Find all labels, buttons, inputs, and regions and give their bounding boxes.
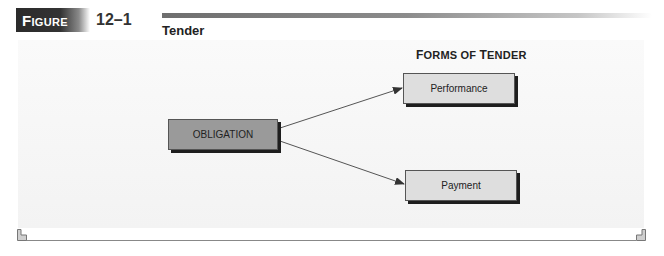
node-obligation-label: OBLIGATION: [193, 129, 253, 140]
node-performance-label: Performance: [430, 83, 487, 94]
node-performance: Performance: [403, 73, 515, 104]
corner-bracket-left-icon: [17, 229, 27, 241]
edge-obligation-performance: [277, 88, 402, 129]
edge-obligation-payment: [277, 140, 404, 184]
node-obligation: OBLIGATION: [168, 119, 278, 150]
edges: [0, 0, 664, 256]
node-payment-label: Payment: [441, 180, 480, 191]
corner-bracket-right-icon: [636, 229, 646, 241]
node-payment: Payment: [405, 170, 517, 201]
bottom-rule: [22, 240, 636, 241]
